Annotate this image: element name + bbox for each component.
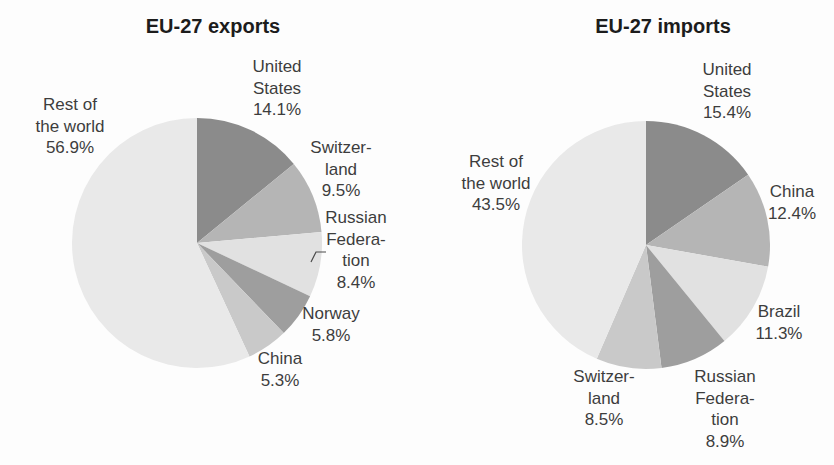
slice-label-russian-federation: tion (711, 410, 738, 429)
slice-label-switzerland: land (588, 389, 620, 408)
slice-label-switzerland: 8.5% (585, 410, 624, 429)
slice-label-switzerland: land (325, 160, 357, 179)
slice-label-united-states: United (252, 57, 301, 76)
slice-label-united-states: States (253, 79, 301, 98)
pie-charts-canvas: UnitedStates14.1%Switzer-land9.5%Russian… (0, 0, 834, 465)
slice-label-russian-federation: 8.4% (337, 273, 376, 292)
slice-label-rest-of-the-world: 56.9% (46, 138, 94, 157)
slice-label-united-states: 14.1% (253, 100, 301, 119)
slice-label-united-states: 15.4% (703, 103, 751, 122)
slice-label-china: 12.4% (768, 204, 816, 223)
slice-label-russian-federation: Russian (325, 208, 386, 227)
slice-label-brazil: Brazil (758, 302, 801, 321)
pie-eu27-imports: UnitedStates15.4%China12.4%Brazil11.3%Ru… (462, 60, 817, 451)
slice-label-norway: Norway (302, 304, 360, 323)
slice-label-switzerland: Switzer- (573, 367, 634, 386)
slice-label-rest-of-the-world: the world (36, 117, 105, 136)
slice-label-united-states: States (703, 82, 751, 101)
slice-label-china: China (770, 182, 815, 201)
chart-title-exports: EU-27 exports (146, 15, 281, 38)
slice-label-rest-of-the-world: the world (462, 174, 531, 193)
slice-label-rest-of-the-world: Rest of (43, 95, 97, 114)
slice-label-rest-of-the-world: 43.5% (472, 195, 520, 214)
slice-label-switzerland: 9.5% (322, 181, 361, 200)
slice-label-russian-federation: 8.9% (706, 432, 745, 451)
slice-label-norway: 5.8% (312, 326, 351, 345)
slice-label-china: 5.3% (261, 371, 300, 390)
slice-label-russian-federation: Federa- (326, 230, 386, 249)
slice-label-russian-federation: tion (342, 251, 369, 270)
pie-eu27-exports: UnitedStates14.1%Switzer-land9.5%Russian… (36, 57, 387, 390)
slice-label-russian-federation: Russian (694, 367, 755, 386)
slice-label-switzerland: Switzer- (310, 138, 371, 157)
slice-label-rest-of-the-world: Rest of (469, 152, 523, 171)
slice-label-china: China (258, 349, 303, 368)
slice-label-brazil: 11.3% (756, 324, 803, 343)
scanned-figure: UnitedStates14.1%Switzer-land9.5%Russian… (0, 0, 834, 465)
slice-label-russian-federation: Federa- (695, 389, 755, 408)
slice-label-united-states: United (702, 60, 751, 79)
chart-title-imports: EU-27 imports (595, 15, 731, 38)
